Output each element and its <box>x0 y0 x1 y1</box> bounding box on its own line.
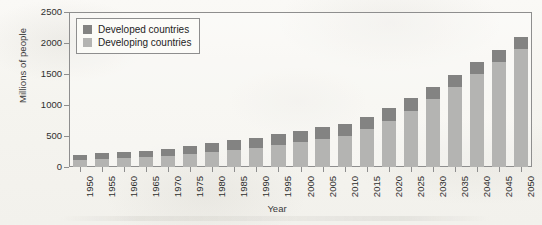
bar-column <box>73 155 87 167</box>
x-axis-tick-mark <box>212 167 213 172</box>
bar-segment-developing <box>470 74 484 167</box>
bar-column <box>404 98 418 167</box>
x-axis-tick-mark <box>477 167 478 172</box>
bar-segment-developed <box>271 134 285 145</box>
bar-segment-developing <box>249 148 263 167</box>
x-axis-tick-label: 1960 <box>128 176 139 197</box>
bar-segment-developing <box>117 158 131 167</box>
bar-segment-developed <box>448 75 462 87</box>
bar-segment-developed <box>404 98 418 111</box>
bar-column <box>139 151 153 167</box>
legend-swatch-developed-icon <box>83 25 92 34</box>
x-axis-tick-label: 2010 <box>349 176 360 197</box>
x-axis-tick-mark <box>521 167 522 172</box>
bar-column <box>95 153 109 167</box>
chart-page: Millions of people 05001000150020002500 … <box>0 0 542 225</box>
x-axis-tick-mark <box>234 167 235 172</box>
x-axis-title-text: Year <box>267 203 286 214</box>
bar-segment-developed <box>205 143 219 152</box>
bar-segment-developed <box>426 87 440 100</box>
bar-segment-developing <box>514 49 528 167</box>
x-axis-tick-mark <box>146 167 147 172</box>
bar-segment-developing <box>161 156 175 167</box>
x-axis-tick-label: 1995 <box>282 176 293 197</box>
bar-segment-developed <box>470 62 484 74</box>
y-axis-tick-mark <box>64 167 69 168</box>
x-axis-tick-mark <box>124 167 125 172</box>
x-axis-tick-mark <box>411 167 412 172</box>
bar-segment-developed <box>360 117 374 129</box>
bar-segment-developed <box>338 124 352 136</box>
x-axis-tick-label: 2025 <box>415 176 426 197</box>
x-axis-tick-mark <box>499 167 500 172</box>
x-axis-tick-label: 1980 <box>216 176 227 197</box>
y-axis-tick-label: 1500 <box>14 68 62 79</box>
bar-segment-developing <box>315 139 329 167</box>
bar-segment-developing <box>404 111 418 167</box>
x-axis-tick-label: 2020 <box>393 176 404 197</box>
bar-column <box>117 152 131 167</box>
bar-segment-developed <box>249 138 263 148</box>
y-axis-tick-label: 2000 <box>14 37 62 48</box>
bar-segment-developed <box>161 149 175 156</box>
legend-label-developing: Developing countries <box>98 37 191 48</box>
x-axis-tick-mark <box>80 167 81 172</box>
x-axis-tick-mark <box>455 167 456 172</box>
x-axis-tick-label: 2030 <box>437 176 448 197</box>
scan-bleed-artifact <box>60 216 490 221</box>
x-axis-tick-mark <box>323 167 324 172</box>
x-axis-tick-label: 2005 <box>327 176 338 197</box>
bar-segment-developed <box>492 50 506 62</box>
bar-segment-developed <box>73 155 87 160</box>
bar-segment-developing <box>293 142 307 167</box>
bar-segment-developing <box>183 154 197 167</box>
bar-segment-developing <box>271 145 285 167</box>
x-axis-tick-label: 2015 <box>371 176 382 197</box>
x-axis-tick-mark <box>278 167 279 172</box>
x-axis-tick-label: 2045 <box>503 176 514 197</box>
bar-column <box>426 87 440 167</box>
bar-column <box>315 127 329 167</box>
chart-legend: Developed countries Developing countries <box>76 18 200 54</box>
bar-segment-developed <box>227 140 241 150</box>
bar-segment-developing <box>426 99 440 167</box>
x-axis-tick-mark <box>389 167 390 172</box>
bar-column <box>249 138 263 167</box>
x-axis-tick-label: 1965 <box>150 176 161 197</box>
bar-segment-developing <box>360 129 374 167</box>
x-axis-tick-mark <box>301 167 302 172</box>
bar-segment-developing <box>338 136 352 167</box>
legend-swatch-developing-icon <box>83 38 92 47</box>
bar-column <box>360 117 374 167</box>
bar-segment-developed <box>382 108 396 121</box>
x-axis-tick-label: 1975 <box>194 176 205 197</box>
x-axis-tick-mark <box>256 167 257 172</box>
bar-column <box>448 75 462 167</box>
x-axis-title: Year <box>0 203 542 214</box>
x-axis-tick-label: 1990 <box>260 176 271 197</box>
bar-segment-developing <box>492 62 506 167</box>
bar-column <box>338 124 352 167</box>
bar-column <box>183 146 197 167</box>
legend-item-developing: Developing countries <box>83 36 191 49</box>
x-axis-tick-mark <box>168 167 169 172</box>
x-axis-tick-label: 1955 <box>106 176 117 197</box>
bar-segment-developed <box>315 127 329 139</box>
bar-segment-developed <box>293 131 307 142</box>
legend-label-developed: Developed countries <box>98 24 189 35</box>
x-axis-tick-mark <box>367 167 368 172</box>
bar-segment-developed <box>95 153 109 158</box>
bar-column <box>382 108 396 167</box>
bar-column <box>514 37 528 167</box>
x-axis-tick-mark <box>433 167 434 172</box>
y-axis-tick-label: 2500 <box>14 6 62 17</box>
bar-segment-developing <box>382 121 396 167</box>
bar-segment-developing <box>205 152 219 167</box>
bar-column <box>161 149 175 167</box>
bar-segment-developing <box>73 160 87 167</box>
legend-item-developed: Developed countries <box>83 23 191 36</box>
x-axis-tick-mark <box>345 167 346 172</box>
bar-segment-developing <box>139 157 153 167</box>
bar-segment-developed <box>514 37 528 49</box>
bar-column <box>205 143 219 167</box>
